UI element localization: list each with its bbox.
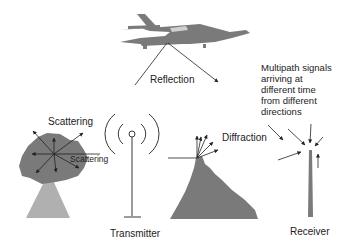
scattering-inner-label: Scattering [70,154,108,165]
scattering-label: Scattering [48,116,93,127]
multipath-line: Multipath signals [261,62,332,73]
multipath-line: directions [261,106,332,117]
tree-icon [19,133,88,218]
airplane-icon [120,14,250,49]
multipath-line: arriving at [261,73,332,84]
transmitter-label: Transmitter [110,228,160,239]
diffraction-label: Diffraction [222,132,267,143]
multipath-line: different time [261,84,332,95]
reflection-label: Reflection [150,74,194,85]
mountain-icon [170,156,258,219]
multipath-line: from different [261,95,332,106]
receiver-label: Receiver [290,226,329,237]
receiver-antenna-icon [308,150,313,217]
transmitter-antenna-icon [105,114,159,217]
multipath-label: Multipath signals arriving at different … [261,62,332,117]
